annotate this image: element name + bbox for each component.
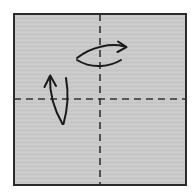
diagram-canvas bbox=[0, 0, 195, 192]
origami-diagram: Origami step: square sheet with two vall… bbox=[0, 0, 195, 192]
